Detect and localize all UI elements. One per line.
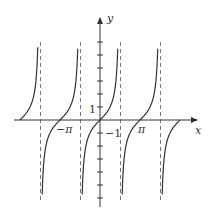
tangent-branch <box>122 49 158 195</box>
tangent-branch <box>20 47 38 120</box>
tangent-graph: y x 1 −1 −π π <box>0 0 211 215</box>
tick-label-y-one: 1 <box>89 103 96 116</box>
x-axis-label: x <box>195 124 202 137</box>
tick-label-neg-pi: −π <box>56 123 73 136</box>
tangent-branch <box>162 120 180 194</box>
tick-label-neg-one: −1 <box>105 127 121 140</box>
tick-label-pi: π <box>137 123 146 136</box>
tangent-branch <box>42 49 77 195</box>
y-axis-label: y <box>106 12 114 25</box>
